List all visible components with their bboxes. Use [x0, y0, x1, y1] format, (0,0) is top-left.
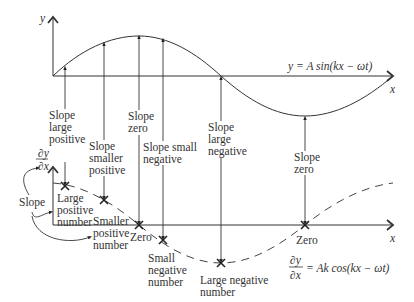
lower-y-axis-label-num: ∂y	[38, 147, 49, 159]
point-large-negative-number: Large negative number	[200, 274, 268, 298]
cosine-equation-rhs: = Ak cos(kx − ωt)	[306, 262, 389, 274]
annotation-slope-small-negative: Slope small negative	[143, 141, 197, 165]
annotation-slope-smaller-positive: Slope smaller positive	[89, 140, 125, 176]
point-zero-2: Zero	[296, 234, 318, 246]
cosine-equation-num: ∂y	[290, 254, 301, 266]
point-zero-1: Zero	[130, 231, 152, 243]
cosine-equation-den: ∂x	[290, 269, 301, 281]
sine-equation: y = A sin(kx − ωt)	[288, 60, 372, 72]
annotation-slope-zero-trough: Slope zero	[294, 151, 320, 175]
wave-slope-diagram: y x y = A sin(kx − ωt) Slope large posit…	[0, 0, 414, 302]
point-smaller-positive-number: Smaller positive number	[93, 215, 129, 251]
point-large-positive-number: Large positive number	[57, 192, 93, 228]
annotation-slope-zero-peak: Slope zero	[128, 110, 154, 134]
upper-y-axis-label: y	[40, 12, 45, 24]
annotation-slope-large-negative: Slope large negative	[208, 121, 247, 157]
point-small-negative-number: Small negative number	[148, 252, 187, 288]
connector-arrows	[65, 37, 305, 155]
lower-y-axis-label-den: ∂x	[38, 160, 49, 172]
slope-label: Slope	[19, 196, 45, 208]
upper-x-axis-label: x	[390, 83, 395, 95]
annotation-slope-large-positive: Slope large positive	[49, 109, 85, 145]
lower-x-axis-label: x	[390, 232, 395, 244]
diagram-graphics	[0, 0, 414, 302]
